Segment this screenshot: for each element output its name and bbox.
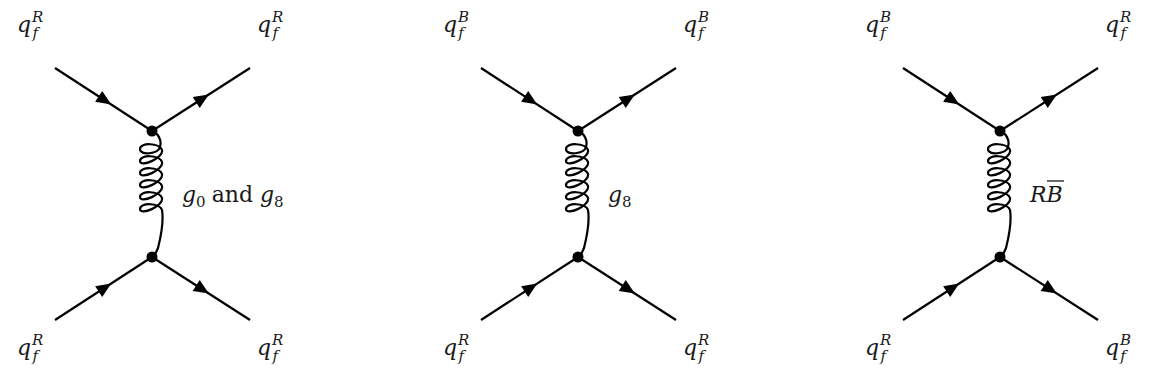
label-top-right: qBf: [683, 8, 709, 42]
label-top-right: qRf: [1105, 8, 1131, 42]
arrow-icon: [193, 89, 213, 108]
arrow-icon: [521, 91, 541, 110]
label-bottom-left: qRf: [443, 331, 469, 365]
feynman-diagram-2: qBfqBfqRfqRfg8: [443, 8, 709, 365]
label-top-left: qRf: [17, 8, 43, 42]
label-top-right: qRf: [257, 8, 283, 42]
gluon-propagator: [140, 131, 163, 257]
vertex-top: [995, 126, 1006, 137]
arrow-icon: [95, 91, 115, 110]
gluon-propagator: [988, 131, 1011, 257]
label-bottom-right: qRf: [683, 331, 709, 365]
vertex-bottom: [147, 252, 158, 263]
label-bottom-left: qRf: [865, 331, 891, 365]
arrow-icon: [1041, 280, 1061, 299]
label-bottom-right: qBf: [1105, 331, 1131, 365]
arrow-icon: [943, 91, 963, 110]
arrow-icon: [619, 280, 639, 299]
vertex-bottom: [573, 252, 584, 263]
arrow-icon: [521, 278, 541, 297]
label-bottom-right: qRf: [257, 331, 283, 365]
gluon-propagator: [566, 131, 589, 257]
vertex-top: [573, 126, 584, 137]
arrow-icon: [943, 278, 963, 297]
propagator-label: RB: [1029, 182, 1063, 207]
vertex-bottom: [995, 252, 1006, 263]
feynman-diagrams: qRfqRfqRfqRfg0andg8qBfqBfqRfqRfg8qBfqRfq…: [0, 0, 1152, 381]
arrow-icon: [619, 89, 639, 108]
arrow-icon: [193, 280, 213, 299]
feynman-diagram-1: qRfqRfqRfqRfg0andg8: [17, 8, 284, 365]
feynman-diagram-3: qBfqRfqRfqBfRB: [865, 8, 1131, 365]
arrow-icon: [95, 278, 115, 297]
propagator-label: g0andg8: [182, 182, 284, 211]
propagator-label: g8: [608, 182, 632, 211]
label-bottom-left: qRf: [17, 331, 43, 365]
label-top-left: qBf: [443, 8, 469, 42]
vertex-top: [147, 126, 158, 137]
label-top-left: qBf: [865, 8, 891, 42]
arrow-icon: [1041, 89, 1061, 108]
